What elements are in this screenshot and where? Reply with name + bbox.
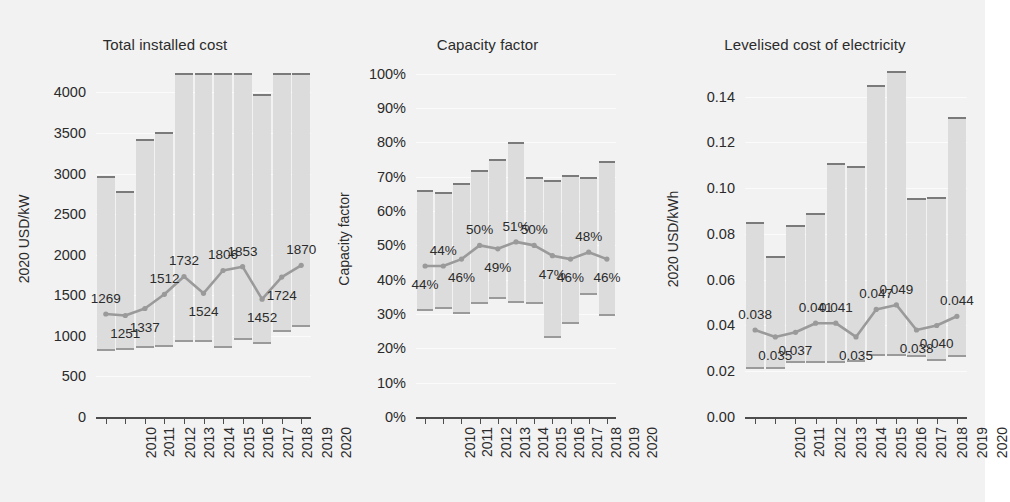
x-tick: [552, 418, 553, 424]
y-tick-label: 70%: [377, 169, 406, 185]
y-tick-label: 1000: [54, 328, 86, 344]
x-tick-label: 2020: [994, 427, 1010, 458]
data-point-marker: [181, 274, 186, 279]
panel-title: Capacity factor: [330, 36, 645, 53]
panel-total-installed-cost: Total installed cost 2020 USD/kW 0500100…: [0, 0, 330, 502]
data-point-label: 44%: [412, 276, 439, 291]
data-point-label: 48%: [575, 229, 602, 244]
data-point-label: 0.040: [920, 336, 954, 351]
y-tick-label: 2000: [54, 247, 86, 263]
y-tick-label: 30%: [377, 306, 406, 322]
y-tick-label: 0.10: [707, 180, 735, 196]
data-point-label: 1870: [286, 242, 316, 257]
x-tick: [957, 418, 958, 424]
y-tick-label: 80%: [377, 134, 406, 150]
panel-capacity-factor: Capacity factor Capacity factor 0%10%20%…: [330, 0, 645, 502]
x-tick-label: 2019: [626, 427, 642, 458]
data-point-marker: [833, 321, 838, 326]
y-tick-label: 0%: [385, 409, 406, 425]
data-point-marker: [586, 250, 591, 255]
x-tick-label: 2017: [934, 427, 950, 458]
y-axis-title: Capacity factor: [336, 192, 352, 285]
x-tick: [896, 418, 897, 424]
data-point-marker: [495, 246, 500, 251]
x-tick-label: 2014: [873, 427, 889, 458]
data-point-marker: [260, 297, 265, 302]
x-tick: [534, 418, 535, 424]
y-tick-label: 0.04: [707, 317, 735, 333]
x-tick-label: 2013: [853, 427, 869, 458]
x-tick: [125, 418, 126, 424]
x-tick: [204, 418, 205, 424]
y-tick-label: 500: [62, 368, 86, 384]
data-point-label: 49%: [484, 259, 511, 274]
data-point-label: 1269: [91, 291, 121, 306]
x-tick-label: 2015: [241, 427, 257, 458]
x-tick: [816, 418, 817, 424]
weighted-average-line: [96, 60, 311, 417]
data-point-marker: [550, 253, 555, 258]
x-tick-label: 2015: [893, 427, 909, 458]
data-point-marker: [934, 323, 939, 328]
data-point-marker: [954, 314, 959, 319]
x-tick: [498, 418, 499, 424]
x-tick: [282, 418, 283, 424]
x-tick-label: 2018: [299, 427, 315, 458]
x-tick: [480, 418, 481, 424]
x-tick-label: 2011: [161, 427, 177, 457]
x-tick: [443, 418, 444, 424]
plot-area: 0%10%20%30%40%50%60%70%80%90%100%44%44%4…: [416, 60, 616, 417]
data-point-label: 0.044: [940, 293, 974, 308]
plot-area: 0500100015002000250030003500400012691251…: [96, 60, 311, 417]
y-tick-label: 100%: [369, 66, 406, 82]
data-point-marker: [162, 292, 167, 297]
data-point-label: 46%: [593, 270, 620, 285]
x-tick: [755, 418, 756, 424]
data-point-label: 1452: [247, 310, 277, 325]
x-tick-label: 2010: [143, 427, 159, 458]
data-point-marker: [914, 327, 919, 332]
data-point-label: 1512: [149, 271, 179, 286]
data-point-marker: [142, 306, 147, 311]
x-tick-label: 2018: [608, 427, 624, 458]
x-tick-label: 2014: [535, 427, 551, 458]
y-tick-label: 60%: [377, 203, 406, 219]
x-tick: [223, 418, 224, 424]
data-point-marker: [894, 302, 899, 307]
x-tick: [106, 418, 107, 424]
x-tick: [876, 418, 877, 424]
data-point-marker: [874, 307, 879, 312]
y-tick-label: 40%: [377, 272, 406, 288]
x-tick: [571, 418, 572, 424]
data-point-marker: [753, 327, 758, 332]
x-tick: [917, 418, 918, 424]
data-point-marker: [441, 263, 446, 268]
data-point-label: 0.049: [879, 281, 913, 296]
data-point-marker: [532, 243, 537, 248]
x-tick: [589, 418, 590, 424]
data-point-marker: [477, 243, 482, 248]
x-tick-label: 2016: [913, 427, 929, 458]
data-point-label: 1524: [188, 304, 218, 319]
x-tick: [836, 418, 837, 424]
data-point-marker: [459, 257, 464, 262]
x-tick-label: 2016: [260, 427, 276, 458]
x-tick-label: 2010: [462, 427, 478, 458]
data-point-marker: [103, 311, 108, 316]
data-point-label: 1337: [130, 319, 160, 334]
x-tick: [301, 418, 302, 424]
data-point-marker: [423, 263, 428, 268]
data-point-label: 0.038: [738, 307, 772, 322]
data-point-marker: [813, 321, 818, 326]
x-tick-label: 2011: [811, 427, 827, 457]
data-point-marker: [279, 275, 284, 280]
x-tick-label: 2018: [954, 427, 970, 458]
y-tick-label: 10%: [377, 375, 406, 391]
x-tick: [937, 418, 938, 424]
data-point-label: 0.037: [779, 343, 813, 358]
y-tick-label: 0.12: [707, 134, 735, 150]
x-tick-label: 2014: [221, 427, 237, 458]
y-tick-label: 50%: [377, 237, 406, 253]
y-tick-label: 0.14: [707, 89, 735, 105]
